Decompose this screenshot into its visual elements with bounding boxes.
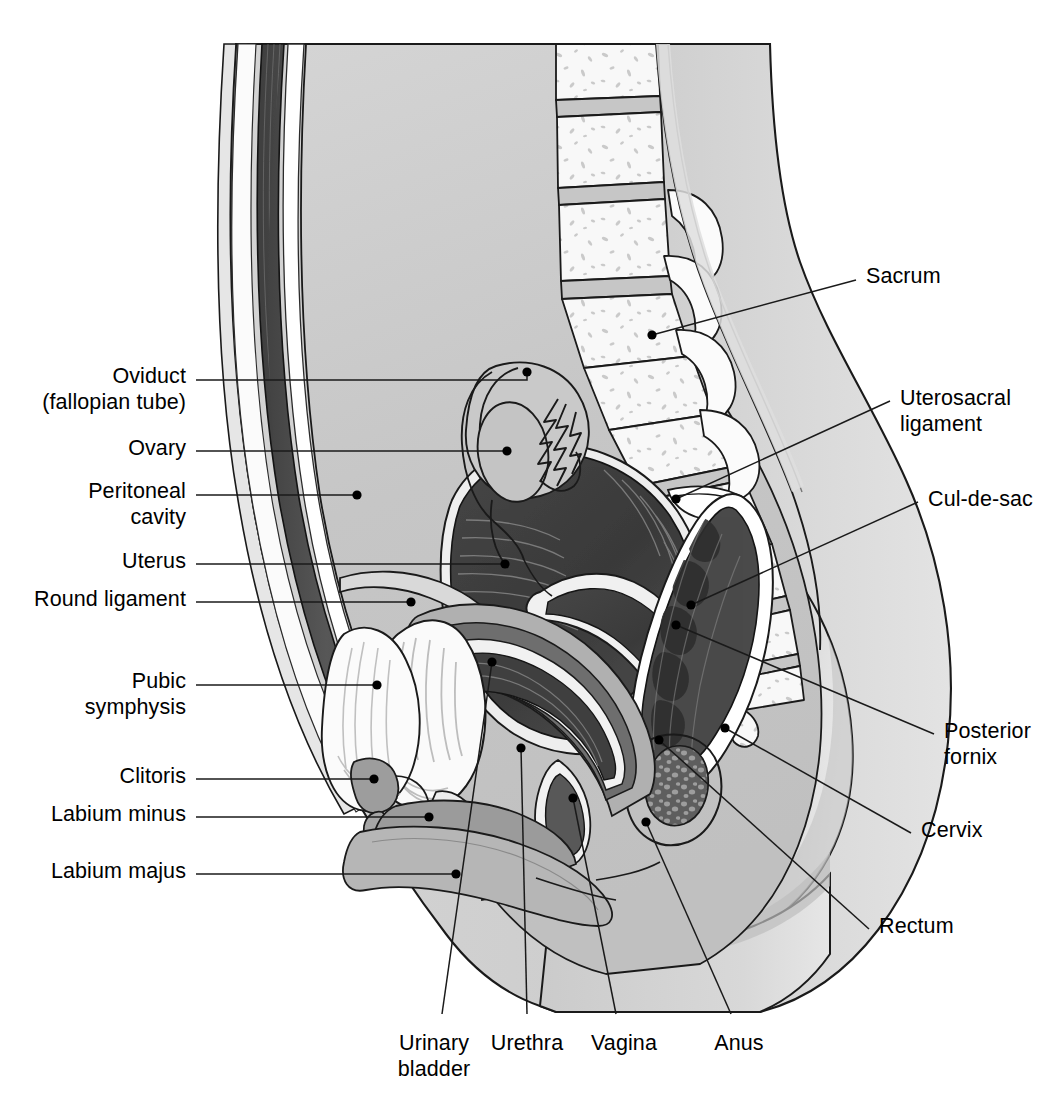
rectum-marker [654, 735, 663, 744]
label-clitoris: Clitoris [120, 763, 187, 789]
pubic-symphysis-marker [372, 680, 381, 689]
vagina-marker [568, 793, 577, 802]
cul-de-sac-marker [686, 600, 695, 609]
label-ovary: Ovary [128, 435, 186, 461]
peritoneal-cavity-marker [352, 490, 361, 499]
ovary-marker [502, 446, 511, 455]
cervix-marker [720, 723, 729, 732]
label-oviduct: Oviduct (fallopian tube) [42, 363, 186, 415]
label-cervix: Cervix [921, 817, 983, 843]
label-uterus: Uterus [122, 548, 186, 574]
urethra-marker [516, 743, 525, 752]
posterior-fornix-marker [671, 620, 680, 629]
round-ligament-marker [406, 597, 415, 606]
labium-majus-marker [451, 869, 460, 878]
labium-minus-marker [424, 812, 433, 821]
label-sacrum: Sacrum [866, 263, 941, 289]
label-rectum: Rectum [879, 913, 954, 939]
sacrum-marker [647, 330, 656, 339]
anus-marker [641, 817, 650, 826]
label-labium-majus: Labium majus [51, 858, 186, 884]
label-pubic-symphysis: Pubic symphysis [85, 668, 186, 720]
urinary-bladder-marker [487, 657, 496, 666]
label-uterosacral-ligament: Uterosacral ligament [900, 385, 1011, 437]
label-labium-minus: Labium minus [51, 801, 186, 827]
oviduct-marker [522, 367, 531, 376]
figure-canvas: Oviduct (fallopian tube)OvaryPeritoneal … [0, 0, 1053, 1109]
label-cul-de-sac: Cul-de-sac [928, 486, 1033, 512]
uterosacral-ligament-marker [671, 494, 680, 503]
clitoris-marker [369, 774, 378, 783]
label-round-ligament: Round ligament [34, 586, 186, 612]
label-posterior-fornix: Posterior fornix [944, 718, 1031, 770]
label-anus: Anus [579, 1030, 899, 1056]
label-peritoneal-cavity: Peritoneal cavity [88, 478, 186, 530]
uterus-marker [500, 559, 509, 568]
